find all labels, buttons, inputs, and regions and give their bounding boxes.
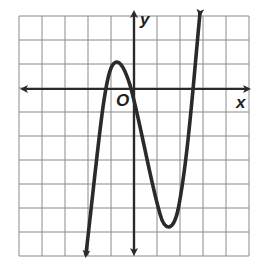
origin-label: O xyxy=(116,91,129,111)
cubic-curve xyxy=(86,13,200,254)
x-axis-label: x xyxy=(236,93,245,113)
coordinate-graph xyxy=(0,0,258,271)
y-axis-label: y xyxy=(140,10,149,30)
